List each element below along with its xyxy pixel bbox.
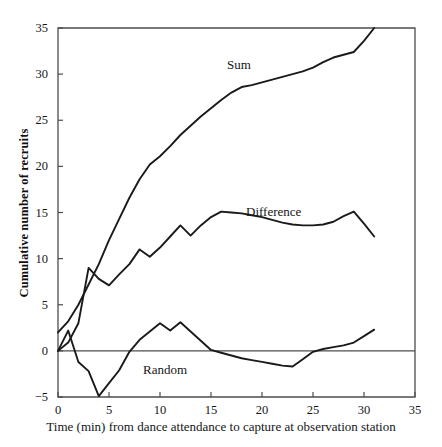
series-line-random: [58, 322, 374, 396]
series-line-sum: [58, 28, 374, 332]
y-tick-label: 35: [0, 22, 48, 35]
x-tick-label: 30: [358, 404, 371, 417]
x-tick-label: 35: [409, 404, 422, 417]
x-tick-label: 15: [205, 404, 218, 417]
series-label-random: Random: [143, 362, 187, 378]
x-tick-label: 20: [256, 404, 269, 417]
y-tick-label: −5: [0, 391, 48, 404]
plot-canvas: [0, 0, 442, 447]
data-series-lines: [58, 28, 374, 396]
x-tick-label: 0: [55, 404, 61, 417]
x-axis-title: Time (min) from dance attendance to capt…: [0, 419, 442, 435]
y-axis-title: Cumulative number of recruits: [17, 48, 32, 378]
series-label-difference: Difference: [246, 204, 301, 220]
series-line-difference: [58, 212, 374, 351]
x-tick-label: 5: [106, 404, 112, 417]
x-tick-label: 25: [307, 404, 320, 417]
x-tick-label: 10: [154, 404, 167, 417]
chart-figure: −505101520253035 05101520253035 Cumulati…: [0, 0, 442, 447]
series-label-sum: Sum: [227, 57, 251, 73]
